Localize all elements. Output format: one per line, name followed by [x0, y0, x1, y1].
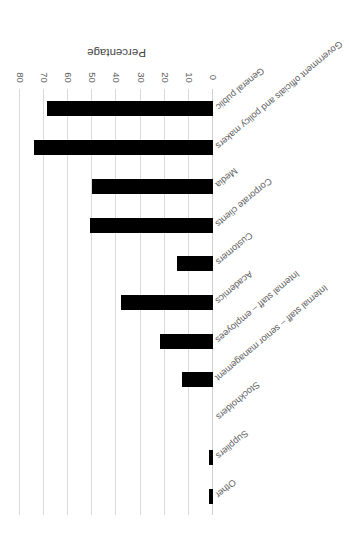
category-label: Internal staff – employees — [214, 269, 302, 345]
figure-rotator: 01020304050607080 Percentage General pub… — [0, 0, 349, 551]
bar-row — [20, 411, 213, 426]
plot-area — [20, 89, 213, 515]
category-axis: General publicGovernment officials and p… — [213, 89, 349, 515]
bar-row — [20, 295, 213, 310]
category-label: Suppliers — [214, 428, 250, 461]
bar — [34, 140, 213, 155]
category-label: Academics — [214, 269, 255, 306]
bar-chart-figure: 01020304050607080 Percentage General pub… — [0, 0, 349, 551]
x-tick-label: 40 — [111, 72, 122, 83]
bar — [177, 256, 213, 271]
x-tick-label: 50 — [87, 72, 98, 83]
category-label: Media — [214, 166, 240, 190]
bar-row — [20, 101, 213, 116]
category-label: Stockholders — [214, 380, 262, 422]
x-tick-label: 70 — [39, 72, 50, 83]
bar-row — [20, 450, 213, 465]
bar-row — [20, 489, 213, 504]
bar-row — [20, 140, 213, 155]
bar-row — [20, 218, 213, 233]
x-tick-label: 80 — [15, 72, 26, 83]
bar — [92, 179, 213, 194]
axis-title-percentage: Percentage — [20, 47, 213, 59]
bar-row — [20, 372, 213, 387]
bar — [160, 334, 213, 349]
x-tick-label: 0 — [208, 75, 219, 80]
bar-row — [20, 256, 213, 271]
category-label: Other — [214, 477, 238, 500]
x-tick-label: 20 — [159, 72, 170, 83]
bar — [90, 218, 213, 233]
bar-row — [20, 179, 213, 194]
category-label: Customers — [214, 231, 255, 268]
bar — [121, 295, 213, 310]
bar — [47, 101, 213, 116]
bar — [182, 372, 213, 387]
x-tick-label: 10 — [183, 72, 194, 83]
x-tick-label: 60 — [63, 72, 74, 83]
x-tick-label: 30 — [135, 72, 146, 83]
bar-row — [20, 334, 213, 349]
